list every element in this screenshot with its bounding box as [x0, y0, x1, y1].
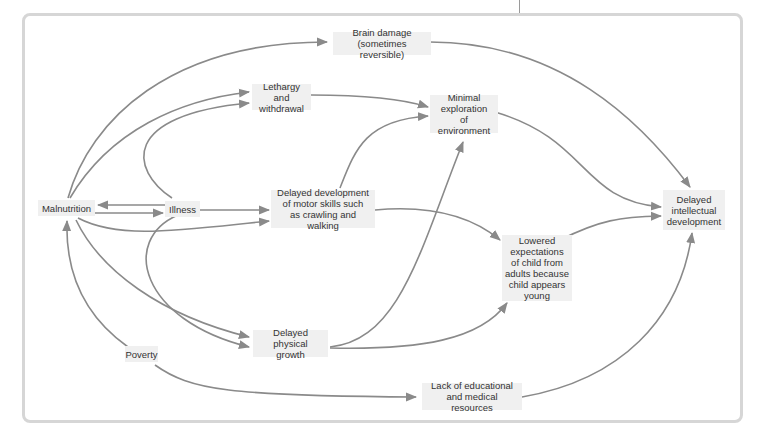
edge-malnutrition-growth — [76, 220, 249, 337]
edge-malnutrition-lethargy — [70, 92, 249, 198]
edge-poverty-malnutrition — [67, 221, 128, 347]
node-lethargy: Lethargy andwithdrawal — [252, 84, 311, 110]
node-poverty: Poverty — [125, 346, 158, 362]
edge-poverty-resources — [155, 365, 416, 397]
edges-layer — [0, 0, 776, 439]
edge-lowered-intellectual — [560, 216, 661, 240]
node-lowered-expectations: Loweredexpectationsof child fromadults b… — [502, 235, 572, 301]
node-malnutrition: Malnutrition — [38, 200, 95, 216]
node-motor-skills: Delayed developmentof motor skills sucha… — [271, 190, 375, 228]
node-physical-growth: Delayed physicalgrowth — [253, 330, 328, 357]
edge-growth-lowered — [330, 303, 507, 348]
edge-growth-exploration — [330, 142, 463, 347]
node-brain-damage: Brain damage(sometimes reversible) — [333, 32, 431, 55]
edge-malnutrition-motor — [78, 218, 269, 231]
edge-malnutrition-brain — [68, 42, 327, 198]
node-lack-resources: Lack of educationaland medical resources — [422, 383, 522, 410]
node-minimal-exploration: Minimalexplorationof environment — [430, 95, 498, 133]
edge-lethargy-exploration — [311, 95, 428, 107]
node-intellectual: Delayedintellectualdevelopment — [663, 190, 725, 230]
edge-motor-exploration — [340, 116, 428, 188]
node-illness: Illness — [165, 201, 200, 217]
edge-illness-growth — [146, 215, 249, 347]
edge-motor-lowered — [375, 209, 500, 240]
